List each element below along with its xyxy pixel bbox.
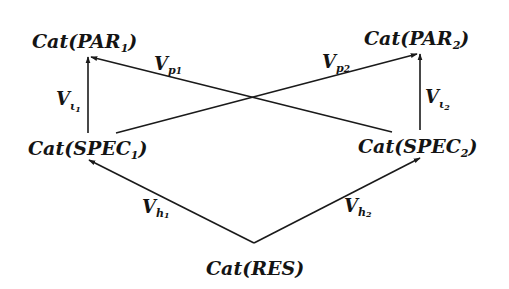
label-v-h1: Vh1: [142, 196, 170, 220]
label-v-p1: Vp1: [154, 53, 182, 77]
label-v-i2: Vι2: [425, 86, 450, 112]
label-v-i1: Vι1: [56, 88, 81, 114]
commutative-diagram: Cat(PAR1) Cat(PAR2) Cat(SPEC1) Cat(SPEC2…: [0, 0, 509, 289]
node-res: Cat(RES): [206, 257, 304, 279]
node-par1: Cat(PAR1): [32, 30, 137, 55]
node-spec1: Cat(SPEC1): [28, 137, 147, 162]
label-v-h2: Vh2: [344, 195, 372, 219]
node-par2: Cat(PAR2): [364, 27, 469, 52]
node-spec2: Cat(SPEC2): [358, 135, 477, 160]
edge-v-h2: [254, 158, 420, 243]
edge-v-h1: [89, 160, 254, 243]
label-v-p2: Vp2: [322, 51, 350, 75]
